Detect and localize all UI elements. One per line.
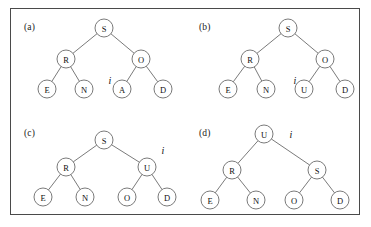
- node-label-O: O: [322, 55, 328, 65]
- tree-edge-R-N: [71, 175, 80, 190]
- node-label-S: S: [315, 166, 320, 176]
- tree-graph-c: SRUENODi: [10, 115, 185, 218]
- node-label-U: U: [301, 85, 307, 95]
- tree-node-R: R: [223, 161, 241, 179]
- tree-edge-S-R: [257, 34, 281, 54]
- tree-node-D: D: [158, 188, 176, 206]
- tree-edge-S-U: [112, 145, 140, 162]
- tree-node-D: D: [331, 191, 349, 209]
- tree-edge-R-N: [254, 67, 262, 81]
- node-label-O: O: [124, 193, 130, 203]
- tree-edge-S-O: [111, 34, 134, 53]
- node-label-N: N: [253, 196, 259, 206]
- tree-edge-R-E: [233, 66, 244, 81]
- tree-edge-O-D: [146, 66, 157, 81]
- tree-node-N: N: [75, 80, 93, 98]
- tree-node-O: O: [118, 188, 136, 206]
- tree-panel-b: (b)SROENUDi: [185, 8, 360, 111]
- node-label-D: D: [337, 196, 343, 206]
- pointer-marker-d: i: [290, 129, 293, 140]
- tree-edge-O-D: [330, 66, 340, 81]
- tree-edge-S-R: [73, 34, 97, 54]
- tree-node-E: E: [201, 191, 219, 209]
- tree-edge-R-E: [52, 67, 61, 82]
- node-label-U: U: [261, 130, 267, 140]
- tree-node-N: N: [247, 191, 265, 209]
- tree-node-S: S: [308, 161, 326, 179]
- node-label-R: R: [229, 166, 235, 176]
- tree-edge-U-D: [152, 174, 162, 189]
- tree-node-U: U: [255, 125, 273, 143]
- tree-node-R: R: [57, 50, 75, 68]
- tree-node-S: S: [95, 131, 113, 149]
- node-label-N: N: [263, 85, 269, 95]
- tree-node-N: N: [257, 80, 275, 98]
- node-label-S: S: [102, 24, 107, 34]
- tree-edge-S-R: [73, 145, 96, 162]
- node-label-E: E: [44, 85, 49, 95]
- tree-edge-U-R: [238, 141, 258, 164]
- pointer-marker-c: i: [162, 145, 165, 156]
- tree-edge-R-E: [215, 177, 226, 192]
- node-label-S: S: [102, 136, 107, 146]
- node-label-O: O: [138, 55, 144, 65]
- tree-edge-S-D: [322, 177, 334, 193]
- tree-node-D: D: [336, 80, 354, 98]
- tree-edge-O-A: [127, 67, 136, 82]
- tree-node-E: E: [34, 188, 52, 206]
- node-label-D: D: [160, 85, 166, 95]
- tree-node-A: A: [113, 80, 131, 98]
- node-label-R: R: [63, 163, 69, 173]
- tree-node-O: O: [285, 191, 303, 209]
- tree-panel-a: (a)SROENADi: [10, 8, 185, 111]
- node-label-S: S: [286, 24, 291, 34]
- tree-graph-a: SROENADi: [10, 8, 185, 111]
- node-label-D: D: [164, 193, 170, 203]
- node-label-R: R: [247, 55, 253, 65]
- tree-node-R: R: [57, 158, 75, 176]
- node-label-A: A: [119, 85, 126, 95]
- tree-node-N: N: [76, 188, 94, 206]
- node-label-N: N: [81, 85, 87, 95]
- tree-edge-R-N: [238, 177, 251, 193]
- tree-node-S: S: [279, 19, 297, 37]
- tree-edge-U-O: [132, 174, 142, 189]
- tree-edge-U-S: [271, 139, 309, 165]
- node-label-N: N: [82, 193, 88, 203]
- tree-node-U: U: [138, 158, 156, 176]
- tree-node-O: O: [316, 50, 334, 68]
- tree-node-U: U: [295, 80, 313, 98]
- tree-node-D: D: [154, 80, 172, 98]
- tree-node-R: R: [241, 50, 259, 68]
- tree-node-O: O: [132, 50, 150, 68]
- tree-node-E: E: [38, 80, 56, 98]
- figure-container: (a)SROENADi(b)SROENUDi(c)SRUENODi(d)URSE…: [0, 0, 371, 227]
- pointer-marker-a: i: [109, 75, 112, 86]
- tree-panel-d: (d)URSENODi: [185, 115, 360, 218]
- tree-panel-c: (c)SRUENODi: [10, 115, 185, 218]
- tree-edge-S-O: [299, 177, 311, 193]
- tree-graph-b: SROENUDi: [185, 8, 360, 111]
- node-label-E: E: [207, 196, 212, 206]
- tree-node-S: S: [95, 19, 113, 37]
- tree-node-E: E: [219, 80, 237, 98]
- pointer-marker-b: i: [294, 75, 297, 86]
- tree-edge-O-U: [309, 66, 320, 81]
- node-label-D: D: [342, 85, 348, 95]
- tree-graph-d: URSENODi: [185, 115, 360, 218]
- tree-edge-S-O: [295, 34, 318, 53]
- node-label-O: O: [291, 196, 297, 206]
- node-label-U: U: [144, 163, 150, 173]
- tree-edge-R-E: [48, 174, 60, 190]
- node-label-R: R: [63, 55, 69, 65]
- tree-edge-R-N: [71, 67, 80, 82]
- node-label-E: E: [40, 193, 45, 203]
- node-label-E: E: [225, 85, 230, 95]
